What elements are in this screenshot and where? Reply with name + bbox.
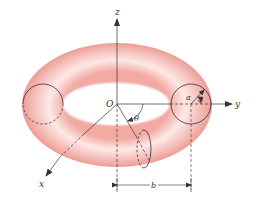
z-axis-label: z xyxy=(114,7,120,17)
torus-diagram: z y x O θ a φ b xyxy=(0,0,254,206)
origin-label: O xyxy=(106,99,114,109)
x-axis-label: x xyxy=(39,179,44,189)
theta-label: θ xyxy=(134,114,139,123)
major-radius-label: b xyxy=(151,181,156,190)
phi-label: φ xyxy=(198,96,203,104)
minor-radius-label: a xyxy=(186,93,191,102)
y-axis-label: y xyxy=(234,99,241,109)
